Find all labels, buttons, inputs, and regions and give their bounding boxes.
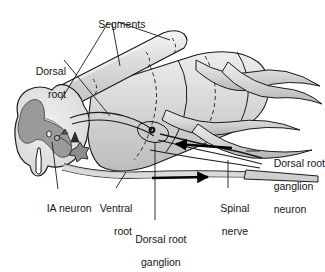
label-dorsal-root-line2: root [48, 88, 66, 100]
efferent-direction-arrow [152, 177, 208, 178]
label-drg-line2: ganglion [141, 256, 181, 268]
ia-neuron-cell [54, 135, 59, 140]
label-dorsal-root: Dorsal root [8, 54, 66, 112]
label-drg-line1: Dorsal root [135, 233, 186, 245]
label-drg-neuron-line2: ganglion [274, 180, 314, 192]
label-drg-neuron-line3: neuron [274, 203, 307, 215]
label-drg-neuron: Dorsal root ganglion neuron [262, 146, 324, 227]
label-ia-neuron-text: IA neuron [47, 202, 92, 214]
central-canal [47, 131, 52, 137]
label-spinal-nerve-line2: nerve [222, 225, 248, 237]
label-ia-neuron: IA neuron [35, 191, 95, 226]
label-ventral-root-line1: Ventral [100, 202, 133, 214]
label-dorsal-root-line1: Dorsal [36, 65, 66, 77]
label-segments: Segments [84, 7, 148, 42]
label-spinal-nerve: Spinal nerve [206, 191, 252, 249]
label-dorsal-root-ganglion: Dorsal root ganglion [118, 222, 192, 272]
label-segments-text: Segments [98, 18, 145, 30]
label-drg-neuron-line1: Dorsal root [274, 157, 325, 169]
label-spinal-nerve-line1: Spinal [220, 202, 249, 214]
